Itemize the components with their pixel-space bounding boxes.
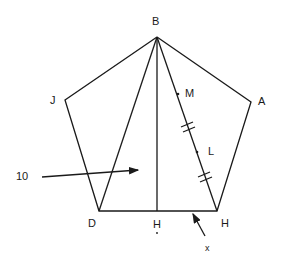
point-M-dot xyxy=(177,93,180,96)
label-M: M xyxy=(185,87,194,99)
label-L: L xyxy=(208,145,214,157)
label-x: x xyxy=(205,243,210,253)
label-10: 10 xyxy=(16,170,28,182)
H-foot-dot xyxy=(156,232,158,234)
label-D: D xyxy=(88,217,96,229)
label-A: A xyxy=(258,95,266,107)
pentagon-diagram: B A J D H H M L 10 x xyxy=(0,0,283,264)
label-H-foot: H xyxy=(153,218,161,230)
arrow-10 xyxy=(42,170,138,177)
label-B: B xyxy=(152,15,159,27)
pentagon-outline xyxy=(65,37,251,211)
label-J: J xyxy=(50,94,56,106)
label-H-vertex: H xyxy=(221,217,229,229)
arrow-x xyxy=(193,214,205,236)
point-L-dot xyxy=(196,151,199,154)
segment-BD xyxy=(99,37,157,211)
